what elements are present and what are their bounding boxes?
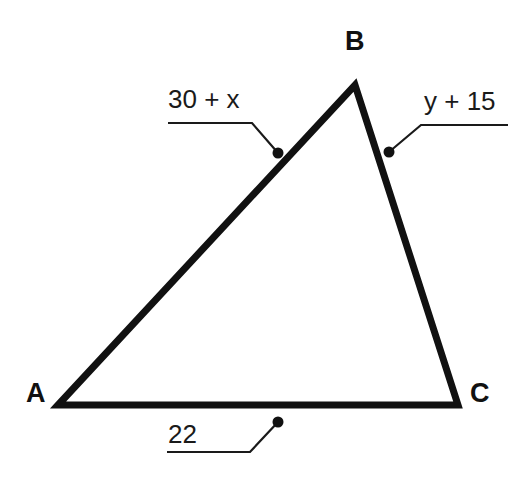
side-label-ca: 22 [168, 421, 197, 447]
vertex-label-a: A [26, 380, 46, 407]
side-label-bc: y + 15 [424, 88, 496, 114]
leader-dot-ab [273, 148, 284, 159]
leader-line-ab [168, 123, 278, 153]
geometry-canvas [0, 0, 521, 480]
leader-dot-bc [384, 147, 395, 158]
side-label-ab: 30 + x [168, 86, 240, 112]
triangle-outline [58, 85, 458, 405]
vertex-label-c: C [470, 380, 490, 407]
leader-dot-ca [273, 417, 284, 428]
vertex-label-b: B [345, 28, 365, 55]
leader-line-bc [389, 125, 508, 152]
triangle-diagram: A B C 30 + x y + 15 22 [0, 0, 521, 480]
